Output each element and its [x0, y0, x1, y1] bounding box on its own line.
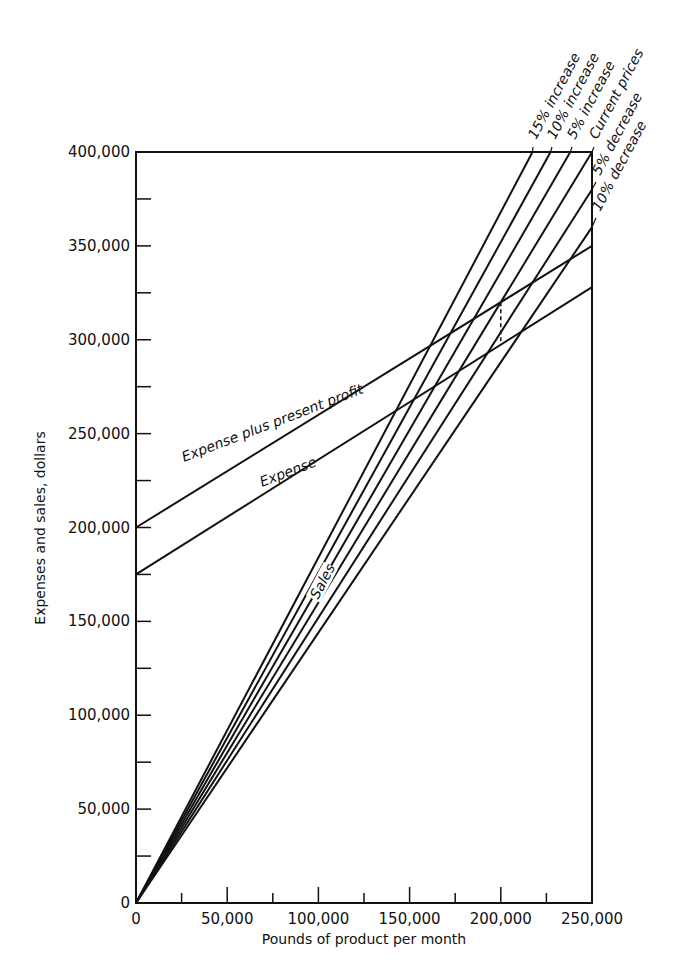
x-tick-label: 0 — [131, 910, 141, 928]
x-tick-label: 250,000 — [561, 910, 623, 928]
tick-labels: 050,000100,000150,000200,000250,000050,0… — [68, 143, 623, 928]
series-line — [136, 152, 551, 903]
x-tick-label: 50,000 — [201, 910, 254, 928]
x-tick-label: 200,000 — [470, 910, 532, 928]
series-line — [136, 287, 592, 574]
expense-plus-profit-label: Expense plus present profit — [179, 381, 365, 465]
y-tick-label: 250,000 — [68, 425, 130, 443]
y-tick-label: 50,000 — [78, 800, 131, 818]
sales-label-group: Sales — [306, 561, 338, 603]
y-tick-label: 150,000 — [68, 612, 130, 630]
series-lines — [136, 152, 592, 903]
y-tick-label: 400,000 — [68, 143, 130, 161]
series-line — [136, 152, 533, 903]
series-line — [136, 246, 592, 528]
series-line — [136, 190, 592, 903]
y-tick-label: 100,000 — [68, 706, 130, 724]
y-tick-label: 350,000 — [68, 237, 130, 255]
series-line — [136, 152, 592, 903]
x-axis-title: Pounds of product per month — [262, 931, 466, 947]
x-tick-label: 100,000 — [287, 910, 349, 928]
expense-label: Expense — [257, 454, 318, 490]
series-line — [136, 227, 592, 903]
y-axis-title: Expenses and sales, dollars — [32, 431, 48, 624]
series-line — [136, 152, 570, 903]
y-tick-label: 0 — [120, 894, 130, 912]
y-tick-label: 200,000 — [68, 519, 130, 537]
x-tick-label: 150,000 — [379, 910, 441, 928]
break-even-chart: 050,000100,000150,000200,000250,000050,0… — [0, 0, 687, 980]
y-tick-label: 300,000 — [68, 331, 130, 349]
